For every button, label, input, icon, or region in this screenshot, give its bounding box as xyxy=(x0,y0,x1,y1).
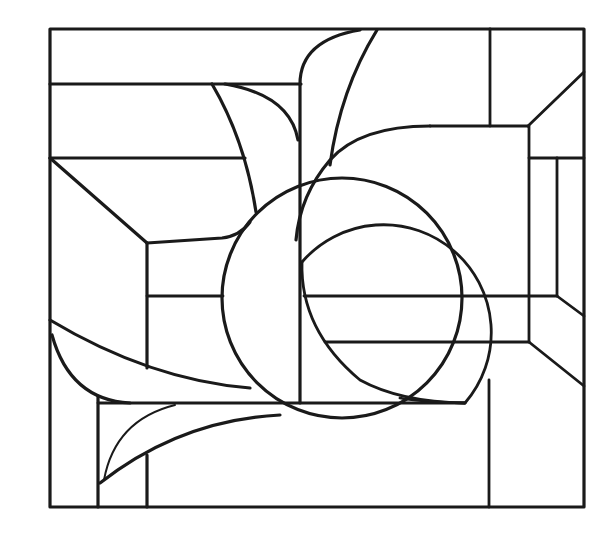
leaf-petal-shapes xyxy=(212,30,377,212)
curved-lead-top xyxy=(296,126,430,240)
sweeping-curves xyxy=(50,320,280,483)
curved-lead-left xyxy=(147,222,250,243)
vertical-leads xyxy=(98,29,557,507)
stained-glass-drawing xyxy=(0,0,616,541)
horizontal-leads xyxy=(50,84,584,403)
diagonal-corner-leads xyxy=(50,72,584,386)
line-art-canvas: Stained glass line-art pattern xyxy=(0,0,616,541)
overlapping-circle-lower xyxy=(302,262,465,403)
large-circle xyxy=(222,178,462,418)
outer-frame xyxy=(50,29,584,507)
overlapping-circle xyxy=(302,225,491,403)
